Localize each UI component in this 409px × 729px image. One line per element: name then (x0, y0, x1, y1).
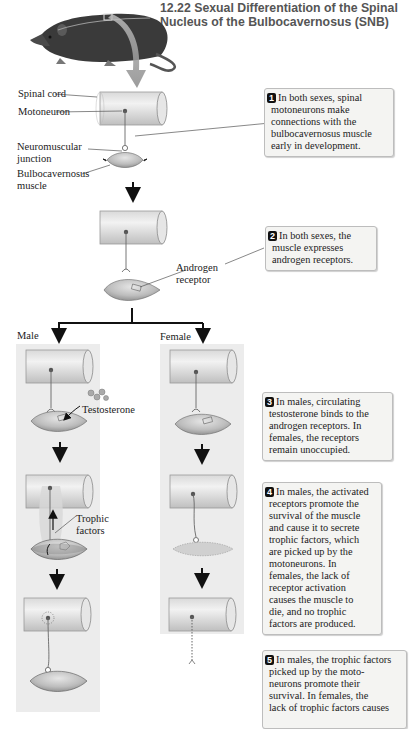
label-female: Female (160, 331, 191, 343)
step-2-line-1: muscle expresses (272, 242, 371, 254)
step-3-line-0: 3In males, circulating (269, 396, 387, 408)
testosterone-molecule-icon (88, 389, 109, 401)
step-4-line-11: factors are produced. (269, 618, 376, 630)
step-3-number-badge: 3 (265, 397, 274, 407)
female-stage-4-graphic (170, 475, 237, 556)
step-5-box: 5In males, the trophic factors picked up… (262, 650, 407, 729)
label-muscle-line-2: muscle (17, 180, 89, 192)
label-nmj-line-1: Neuromuscular (17, 141, 82, 153)
step-3-line-3: females, the receptors (269, 432, 387, 444)
label-androgen-line-2: receptor (176, 274, 218, 286)
step-4-number-badge: 4 (265, 487, 274, 497)
step-4-line-10: die, and no trophic (269, 606, 376, 618)
step-4-line-6: motoneurons. In (269, 558, 376, 570)
step-5-line-4: lack of trophic factors causes (269, 702, 401, 714)
label-androgen-line-1: Androgen (176, 262, 218, 274)
step-2-number-badge: 2 (268, 231, 277, 241)
step-1-number-badge: 1 (267, 93, 276, 103)
step-4-line-8: receptor activation (269, 582, 376, 594)
male-stage-3-graphic (26, 350, 109, 432)
label-motoneuron: Motoneuron (18, 106, 70, 118)
step-3-line-4: remain unoccupied. (269, 444, 387, 456)
step-1-line-2: connections with the (271, 116, 388, 128)
male-stage-5-graphic (24, 598, 91, 692)
step-3-box: 3In males, circulating testosterone bind… (262, 392, 393, 461)
label-muscle-line-1: Bulbocavernosus (17, 168, 89, 180)
step-4-line-9: causes the muscle to (269, 594, 376, 606)
step-1-line-4: early in development. (271, 140, 388, 152)
label-trophic-factors: Trophic factors (76, 513, 109, 537)
female-stage-3-graphic (170, 350, 237, 435)
stage-2-graphic (100, 211, 167, 301)
step-3-line-1: testosterone binds to the (269, 408, 387, 420)
label-bulbocavernosus-muscle: Bulbocavernosus muscle (17, 168, 89, 192)
stage-1-graphic (96, 92, 167, 168)
step-5-line-0: 5In males, the trophic factors (269, 654, 401, 666)
label-androgen-receptor: Androgen receptor (176, 262, 218, 286)
step-5-line-1: picked up by the moto- (269, 666, 401, 678)
female-stage-5-graphic (169, 598, 236, 664)
step-3-line-2: androgen receptors. In (269, 420, 387, 432)
step-1-box: 1In both sexes, spinal motoneurons make … (264, 88, 394, 157)
label-testosterone: Testosterone (82, 404, 135, 416)
step-5-number-badge: 5 (265, 655, 274, 665)
label-spinal-cord: Spinal cord (18, 88, 66, 100)
label-male: Male (17, 330, 39, 342)
label-trophic-line-2: factors (76, 525, 109, 537)
step-1-line-0: 1In both sexes, spinal (271, 92, 388, 104)
step-1-line-3: bulbocavernosus muscle (271, 128, 388, 140)
step-4-box: 4In males, the activated receptors promo… (262, 482, 382, 635)
step-4-line-7: females, the lack of (269, 570, 376, 582)
step-4-line-0: 4In males, the activated (269, 486, 376, 498)
step-2-line-0: 2In both sexes, the (272, 230, 371, 242)
label-nmj-line-2: junction (17, 153, 82, 165)
step-1-line-1: motoneurons make (271, 104, 388, 116)
step-5-line-3: survival. In females, the (269, 690, 401, 702)
label-neuromuscular-junction: Neuromuscular junction (17, 141, 82, 165)
step-4-line-2: survival of the muscle (269, 510, 376, 522)
rat-illustration (30, 14, 175, 71)
label-trophic-line-1: Trophic (76, 513, 109, 525)
step-4-line-4: trophic factors, which (269, 534, 376, 546)
step-2-line-2: androgen receptors. (272, 254, 371, 266)
step-2-box: 2In both sexes, the muscle expresses and… (265, 226, 377, 271)
step-5-line-2: neurons promote their (269, 678, 401, 690)
step-4-line-3: and cause it to secrete (269, 522, 376, 534)
step-4-line-5: are picked up by the (269, 546, 376, 558)
step-4-line-1: receptors promote the (269, 498, 376, 510)
